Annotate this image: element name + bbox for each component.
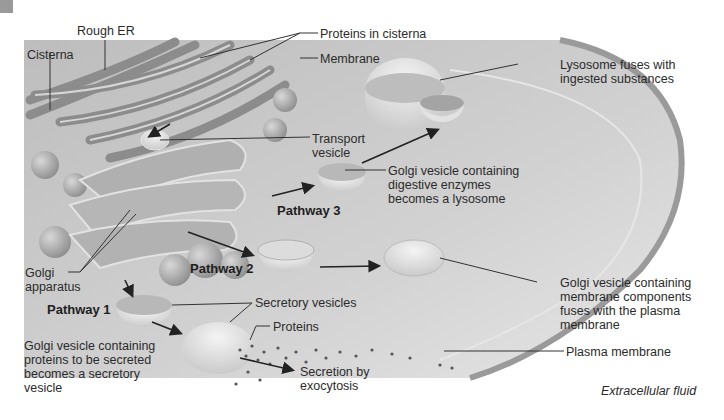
label-golgi-apparatus: Golgi apparatus [25,266,81,294]
label-extracellular-fluid: Extracellular fluid [601,384,696,398]
label-golgi-membrane: Golgi vesicle containing membrane compon… [560,276,691,332]
label-golgi-lysosome: Golgi vesicle containing digestive enzym… [388,164,519,206]
label-cisterna: Cisterna [27,48,74,62]
label-membrane: Membrane [320,52,380,66]
label-pathway-2: Pathway 2 [190,262,254,276]
label-lysosome-fuses: Lysosome fuses with ingested substances [560,58,676,86]
fusing-vesicle [384,240,444,276]
secretory-vesicle-2 [182,322,254,374]
label-rough-er: Rough ER [77,24,135,38]
label-secretory-vesicles: Secretory vesicles [255,296,356,310]
label-secretion: Secretion by exocytosis [300,365,369,393]
label-golgi-secreted: Golgi vesicle containing proteins to be … [24,339,155,395]
label-proteins-in-cisterna: Proteins in cisterna [320,27,426,41]
label-pathway-1: Pathway 1 [47,303,111,317]
label-pathway-3: Pathway 3 [277,204,341,218]
label-plasma-membrane: Plasma membrane [566,345,671,359]
label-proteins: Proteins [273,320,319,334]
golgi-diagram: Rough ER Cisterna Proteins in cisterna M… [0,0,724,420]
label-transport-vesicle: Transport vesicle [312,132,365,160]
